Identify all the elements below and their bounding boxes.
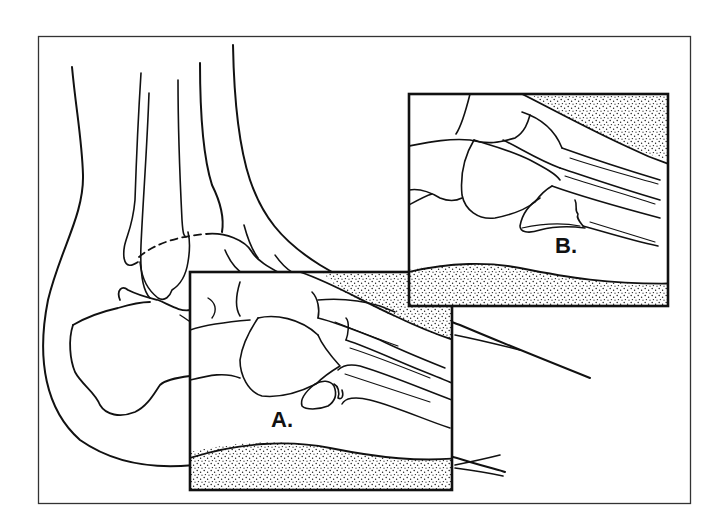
foot-fracture-illustration: A. (0, 0, 717, 530)
inset-b-label: B. (555, 233, 577, 258)
figure-caption (38, 522, 688, 530)
inset-a-label: A. (271, 407, 293, 432)
inset-b: B. (409, 94, 690, 306)
